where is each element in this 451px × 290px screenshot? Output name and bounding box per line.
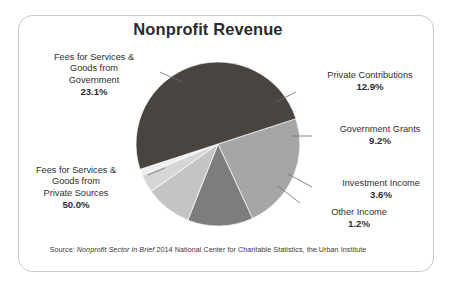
slice-label-government: Fees for Services & Goods from Governmen… — [30, 52, 158, 98]
slice-label-grants: Government Grants 9.2% — [316, 124, 444, 147]
slice-label-other-text: Other Income — [331, 207, 387, 217]
slice-label-private-sources-line2: Goods from — [52, 176, 100, 186]
slice-label-private-sources: Fees for Services & Goods from Private S… — [8, 165, 144, 211]
slice-label-contributions: Private Contributions 12.9% — [300, 70, 440, 93]
slice-label-other: Other Income 1.2% — [300, 207, 418, 230]
slice-label-investment-text: Investment Income — [342, 178, 420, 188]
pie-slice-group — [136, 62, 300, 226]
source-title: Nonprofit Sector in Brief — [77, 245, 155, 254]
source-suffix: 2014 National Center for Charitable Stat… — [154, 245, 366, 254]
slice-value-other: 1.2% — [300, 218, 418, 229]
slice-value-private-sources: 50.0% — [8, 199, 144, 210]
slice-label-private-sources-line3: Private Sources — [44, 188, 109, 198]
slice-value-grants: 9.2% — [316, 135, 444, 146]
slice-value-government: 23.1% — [30, 86, 158, 97]
source-note: Source: Nonprofit Sector in Brief 2014 N… — [0, 245, 416, 254]
screenshot-root: Nonprofit Revenue Fees for Services & Go… — [0, 0, 451, 290]
slice-label-grants-text: Government Grants — [340, 124, 421, 134]
source-prefix: Source: — [50, 245, 77, 254]
slice-value-investment: 3.6% — [316, 189, 446, 200]
slice-label-investment: Investment Income 3.6% — [316, 178, 446, 201]
slice-value-contributions: 12.9% — [300, 81, 440, 92]
slice-label-government-line1: Fees for Services & — [54, 52, 134, 62]
slice-label-private-sources-line1: Fees for Services & — [36, 165, 116, 175]
slice-label-contributions-text: Private Contributions — [327, 70, 412, 80]
slice-label-government-line2: Goods from — [70, 63, 118, 73]
slice-label-government-line3: Government — [69, 75, 120, 85]
